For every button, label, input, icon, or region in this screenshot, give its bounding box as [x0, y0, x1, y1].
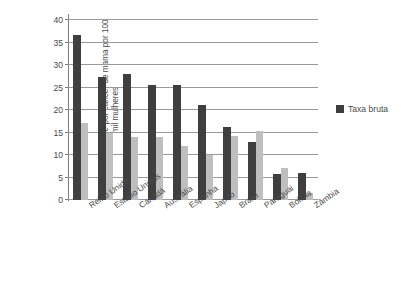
x-tick-label-text: Bolívia [287, 202, 293, 210]
x-tick-label-text: Canadá [137, 202, 143, 210]
x-tick-label-text: Austrália [162, 202, 168, 210]
y-tick-label: 15 [53, 128, 63, 138]
y-tick-label: 25 [53, 83, 63, 93]
bars-layer [68, 20, 318, 200]
y-tick-label: 10 [53, 150, 63, 160]
x-tick-label-text: Brasil [237, 202, 243, 210]
legend: Taxa bruta [336, 104, 388, 114]
x-tick-label-text: Paraguai [262, 202, 268, 210]
bar [81, 123, 89, 200]
bar-group [293, 20, 318, 200]
x-tick-label-text: Espanha [187, 202, 193, 210]
x-tick-label-text: Japão [212, 202, 218, 210]
bar [73, 35, 81, 200]
x-tick-label-text: Estado Unidos [112, 202, 118, 210]
plot-area: 0510152025303540 [68, 20, 318, 200]
y-tick-label: 35 [53, 38, 63, 48]
bar-group [68, 20, 93, 200]
y-tick-label: 0 [58, 195, 63, 205]
bar-group [268, 20, 293, 200]
bar-group [118, 20, 143, 200]
bar [98, 77, 106, 200]
bar-group [243, 20, 268, 200]
legend-swatch-dark [336, 105, 344, 113]
bar-group [218, 20, 243, 200]
legend-label: Taxa bruta [348, 104, 388, 114]
x-axis-labels: Reino UnidoEstado UnidosCanadáAustráliaE… [68, 202, 318, 286]
bar [256, 131, 264, 200]
y-tick-label: 20 [53, 105, 63, 115]
bar-group [168, 20, 193, 200]
bar-group [93, 20, 118, 200]
bar [173, 85, 181, 200]
bar-chart: Taxa de mortalidade por câncer de mama p… [0, 0, 418, 286]
y-tick-label: 40 [53, 15, 63, 25]
bar-group [193, 20, 218, 200]
y-tick-label: 30 [53, 60, 63, 70]
x-tick-label-text: Reino Unido [87, 202, 93, 210]
y-tick-label: 5 [58, 173, 63, 183]
x-tick-label-text: Zâmbia [312, 202, 318, 210]
bar [198, 105, 206, 200]
